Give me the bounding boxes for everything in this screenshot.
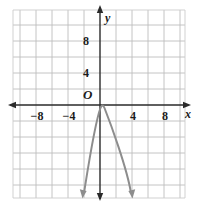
parabola-right-arrow-icon xyxy=(128,189,135,198)
origin-label: O xyxy=(83,88,92,101)
y-axis-down-arrow-icon xyxy=(97,193,103,201)
x-axis-label: x xyxy=(185,108,191,120)
coordinate-plane-figure: 8 4 O −8 −4 4 8 y x xyxy=(0,0,201,207)
x-tick-label-8: 8 xyxy=(158,110,172,122)
y-axis xyxy=(97,5,103,201)
y-tick-label-4: 4 xyxy=(79,67,93,79)
grid-frame xyxy=(13,10,185,198)
grid-lines xyxy=(13,10,185,198)
x-tick-label-neg8: −8 xyxy=(27,110,47,122)
graph-canvas xyxy=(0,0,201,207)
y-tick-label-8: 8 xyxy=(79,35,93,47)
x-axis-left-arrow-icon xyxy=(8,102,16,108)
y-axis-up-arrow-icon xyxy=(97,5,103,13)
x-tick-label-4: 4 xyxy=(126,110,140,122)
parabola-left-arrow-icon xyxy=(80,189,87,198)
x-tick-label-neg4: −4 xyxy=(59,110,79,122)
y-axis-label: y xyxy=(105,12,110,24)
